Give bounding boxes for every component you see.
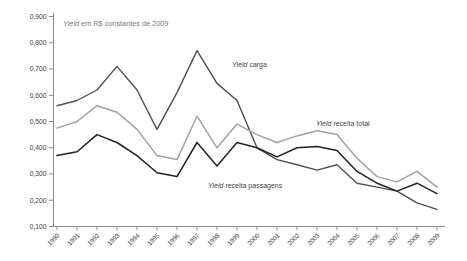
x-tick-label: 1995 [146,231,161,246]
series-label-carga: Yield carga [232,61,267,69]
y-tick-label: 0,300 [30,170,47,177]
x-tick-label: 2007 [386,231,401,246]
x-tick-label: 2006 [366,231,381,246]
x-tick-label: 2005 [346,231,361,246]
y-tick-label: 0,200 [30,197,47,204]
x-tick-label: 1990 [46,231,61,246]
yield-line-chart: 0,1000,2000,3000,4000,5000,6000,7000,800… [0,0,467,261]
x-tick-label: 2008 [406,231,421,246]
x-tick-label: 1993 [106,231,121,246]
x-tick-label: 2003 [306,231,321,246]
y-tick-label: 0,700 [30,65,47,72]
x-tick-label: 2001 [266,231,281,246]
x-tick-label: 1996 [166,231,181,246]
x-tick-label: 1991 [66,231,81,246]
x-tick-label: 1994 [126,231,141,246]
x-tick-label: 1998 [206,231,221,246]
y-tick-label: 0,100 [30,223,47,230]
x-tick-label: 2000 [246,231,261,246]
series-label-passagens: Yield receita passagens [208,182,283,190]
y-tick-label: 0,500 [30,118,47,125]
x-tick-label: 1997 [186,231,201,246]
x-tick-label: 2009 [426,231,441,246]
x-tick-label: 1992 [86,231,101,246]
x-tick-label: 2002 [286,231,301,246]
y-tick-label: 0,800 [30,39,47,46]
x-tick-label: 1999 [226,231,241,246]
y-tick-label: 0,900 [30,13,47,20]
y-tick-label: 0,600 [30,92,47,99]
yield-chart-figure: 0,1000,2000,3000,4000,5000,6000,7000,800… [0,0,467,261]
x-tick-label: 2004 [326,231,341,246]
series-label-total: Yield receita total [316,120,370,127]
y-tick-label: 0,400 [30,144,47,151]
chart-title: Yield em R$ constantes de 2009 [63,19,168,28]
series-line-total [57,106,437,187]
